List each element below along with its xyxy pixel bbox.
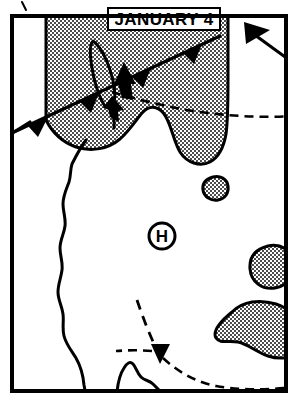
small-precipitation-blob-upper: [203, 176, 228, 200]
weather-map-canvas: H JANUARY 4: [0, 0, 299, 409]
trough-line-southwest-branch: [116, 350, 152, 351]
weather-map-figure: H JANUARY 4: [0, 0, 299, 409]
map-title: JANUARY 4: [114, 10, 213, 29]
high-pressure-label: H: [156, 227, 168, 246]
